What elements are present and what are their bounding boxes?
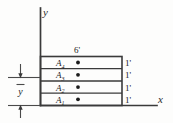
centroid-diagram-figure: y x 6' y A4 A3 A2 A1 1' 1' 1' 1' [0, 0, 173, 123]
area-label-a3: A3 [55, 70, 65, 82]
area-label-a1: A1 [55, 95, 65, 107]
centroid-dot-a4 [76, 61, 80, 65]
height-label-a3: 1' [125, 70, 132, 80]
centroid-dot-a2 [76, 85, 80, 89]
centroid-dot-a3 [76, 73, 80, 77]
area-label-a1-sub: 1 [62, 100, 65, 106]
area-label-a4: A4 [55, 58, 65, 70]
x-axis-label: x [157, 93, 163, 105]
area-label-a4-sub: 4 [62, 64, 65, 70]
y-axis-label: y [42, 6, 48, 18]
height-label-a2: 1' [125, 83, 132, 93]
area-label-a3-sub: 3 [61, 76, 65, 82]
height-label-a4: 1' [125, 58, 132, 68]
height-label-a1: 1' [125, 95, 132, 105]
ybar-dimension-label: y [17, 86, 23, 97]
width-dimension-label: 6' [74, 45, 81, 55]
diagram-canvas: y x 6' y A4 A3 A2 A1 1' 1' 1' 1' [0, 0, 173, 123]
area-label-a2-sub: 2 [62, 88, 65, 94]
area-label-a2: A2 [55, 83, 65, 95]
centroid-dot-a1 [76, 97, 80, 101]
